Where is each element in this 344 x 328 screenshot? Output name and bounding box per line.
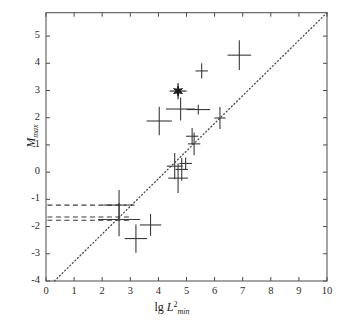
figure: Mmax lg L2min 012345678910-4-3-2-1012345 [0, 0, 344, 328]
data-point-errorbar [228, 40, 252, 70]
x-tick-label: 5 [177, 285, 197, 296]
y-axis-label-sub: max [31, 124, 40, 137]
data-point-errorbar [168, 163, 188, 193]
x-tick-label: 7 [233, 285, 253, 296]
x-axis-label-sub: min [178, 307, 190, 316]
y-tick-label: 1 [20, 138, 40, 149]
axis-ticks [46, 13, 327, 281]
reference-line [54, 13, 327, 281]
y-tick-label: -2 [20, 220, 40, 231]
highlighted-event-marker [170, 83, 187, 99]
y-tick-label: 3 [20, 84, 40, 95]
y-tick-label: 2 [20, 111, 40, 122]
data-points [98, 40, 251, 253]
y-tick-label: -4 [20, 274, 40, 285]
x-tick-label: 6 [205, 285, 225, 296]
x-axis-label-lead: lg [154, 300, 166, 314]
y-tick-label: 5 [20, 29, 40, 40]
x-tick-label: 2 [92, 285, 112, 296]
dashed-threshold-lines [47, 205, 128, 220]
x-tick-label: 1 [64, 285, 84, 296]
y-tick-label: 0 [20, 165, 40, 176]
data-point-errorbar [187, 105, 211, 115]
data-point-errorbar [195, 63, 207, 78]
x-tick-label: 10 [317, 285, 337, 296]
x-axis-label-symbol: L [167, 300, 174, 314]
data-point-errorbar [98, 203, 140, 237]
x-tick-label: 4 [148, 285, 168, 296]
x-tick-label: 3 [120, 285, 140, 296]
x-tick-label: 9 [289, 285, 309, 296]
data-point-errorbar [125, 224, 147, 252]
data-point-errorbar [214, 107, 225, 129]
y-tick-label: 4 [20, 56, 40, 67]
x-tick-label: 8 [261, 285, 281, 296]
y-tick-label: -1 [20, 192, 40, 203]
y-tick-label: -3 [20, 247, 40, 258]
plot-frame [46, 13, 327, 281]
data-point-errorbar [147, 107, 172, 135]
x-axis-label: lg L2min [0, 300, 344, 316]
x-tick-label: 0 [36, 285, 56, 296]
y-axis-label: Mmax [24, 96, 40, 176]
data-point-errorbar [140, 214, 161, 236]
scatter-plot-canvas [0, 0, 344, 328]
